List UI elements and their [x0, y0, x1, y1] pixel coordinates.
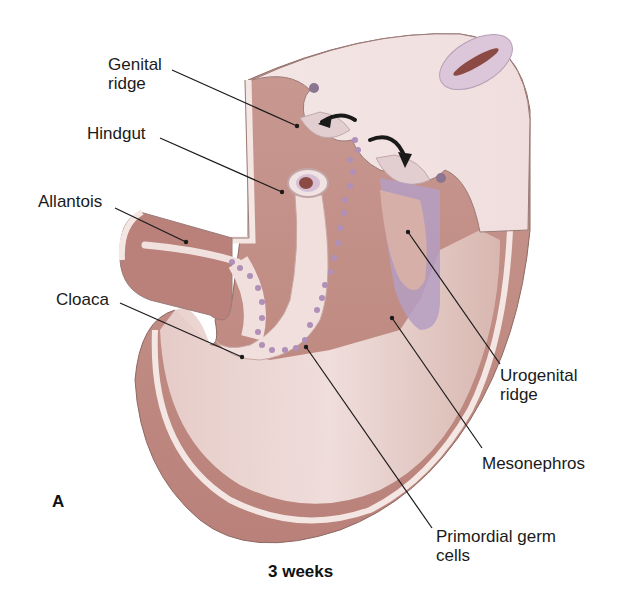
label-allantois: Allantois	[38, 192, 102, 211]
label-cloaca: Cloaca	[56, 290, 109, 309]
label-urogenital-ridge: Urogenital ridge	[500, 366, 578, 404]
label-primordial-germ-cells: Primordial germ cells	[436, 527, 556, 565]
label-mesonephros: Mesonephros	[482, 454, 585, 473]
label-hindgut: Hindgut	[87, 124, 146, 143]
aorta-right	[436, 173, 446, 183]
panel-letter: A	[52, 492, 64, 512]
aorta-left	[309, 83, 319, 93]
figure-caption: 3 weeks	[268, 562, 333, 582]
allantois	[120, 212, 238, 320]
label-genital-ridge: Genital ridge	[108, 55, 162, 93]
